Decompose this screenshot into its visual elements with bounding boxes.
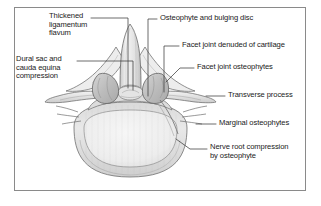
spinal-canal — [118, 86, 143, 100]
label-dural-sac-cauda-equina-compression: Dural sac and cauda equina compression — [16, 55, 62, 81]
marginal-osteophyte-left — [56, 106, 81, 124]
vertebral-body — [74, 100, 187, 180]
label-transverse-process: Transverse process — [228, 91, 293, 100]
label-osteophyte-and-bulging-disc: Osteophyte and bulging disc — [160, 14, 253, 23]
label-nerve-root-compression-by-osteophyte: Nerve root compression by osteophyte — [210, 143, 288, 160]
marginal-osteophyte-right — [180, 106, 207, 124]
spinous-process — [120, 24, 141, 92]
label-facet-joint-osteophytes: Facet joint osteophytes — [197, 63, 273, 72]
label-facet-joint-denuded-of-cartilage: Facet joint denuded of cartilage — [182, 41, 285, 50]
figure-root: Thickened ligamentum flavum Dural sac an… — [0, 0, 321, 206]
label-marginal-osteophytes: Marginal osteophytes — [219, 119, 289, 128]
facet-joint-right — [142, 73, 168, 103]
label-thickened-ligamentum-flavum: Thickened ligamentum flavum — [49, 12, 87, 38]
facet-joint-left — [92, 73, 118, 103]
